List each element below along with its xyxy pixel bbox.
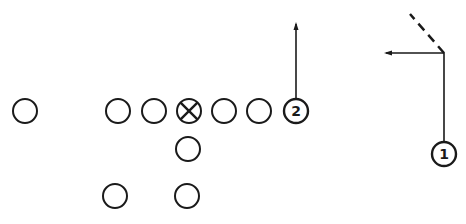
player-number-label: 1 [439,146,449,162]
player-split-end-left [13,99,37,123]
player-lineman-1 [106,99,130,123]
route-receiver-1-option-line [410,14,444,53]
player-circle-icon [175,184,199,208]
players-layer: 21 [13,99,456,208]
player-center [177,99,201,123]
player-receiver-2: 2 [284,99,308,123]
player-circle-icon [106,99,130,123]
player-quarterback [176,137,200,161]
player-circle-icon [103,184,127,208]
player-lineman-2 [142,99,166,123]
route-receiver-1-line [386,53,444,142]
player-back-left [103,184,127,208]
play-diagram: 21 [0,0,466,224]
player-circle-icon [13,99,37,123]
routes-layer [296,14,444,142]
player-circle-icon [247,99,271,123]
player-receiver-1: 1 [432,142,456,166]
player-lineman-5 [247,99,271,123]
player-number-label: 2 [291,103,301,119]
player-circle-icon [212,99,236,123]
player-circle-icon [176,137,200,161]
player-lineman-4 [212,99,236,123]
player-back-right [175,184,199,208]
player-circle-icon [142,99,166,123]
